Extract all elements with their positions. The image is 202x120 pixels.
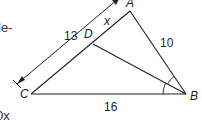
triangle-diagram: le- 0x A B C D 13 x 10 16 [0, 0, 202, 120]
vertex-label-d: D [84, 28, 93, 40]
side-label-16: 16 [104, 101, 117, 113]
vertex-label-b: B [190, 90, 198, 102]
vertex-label-a: A [126, 0, 134, 9]
side-ca [31, 11, 130, 94]
text-fragment-bottom: 0x [0, 109, 10, 120]
triangle-figure [0, 0, 202, 120]
vertex-label-c: C [20, 88, 29, 100]
side-label-13: 13 [64, 30, 77, 42]
side-label-x: x [104, 15, 110, 27]
angle-arc-2 [168, 77, 174, 85]
segment-bd [93, 44, 186, 94]
angle-arc-1 [163, 83, 166, 94]
side-label-10: 10 [160, 37, 173, 49]
text-fragment-top: le- [0, 21, 12, 34]
side-ab [130, 11, 186, 94]
arrowhead-sw [17, 76, 25, 84]
